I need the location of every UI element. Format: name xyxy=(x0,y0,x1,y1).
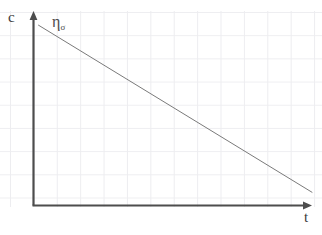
curve-label-eta-sigma: ησ xyxy=(52,14,65,32)
curve-label-subscript: σ xyxy=(60,22,65,32)
caption-clipped-row xyxy=(0,227,322,235)
chart-figure: c t ησ xyxy=(0,0,322,235)
chart-plot-area xyxy=(0,0,322,235)
x-axis-label: t xyxy=(304,210,308,225)
data-line-eta-sigma xyxy=(39,25,312,192)
y-axis-arrow-icon xyxy=(30,11,38,20)
y-axis-label: c xyxy=(8,10,15,25)
